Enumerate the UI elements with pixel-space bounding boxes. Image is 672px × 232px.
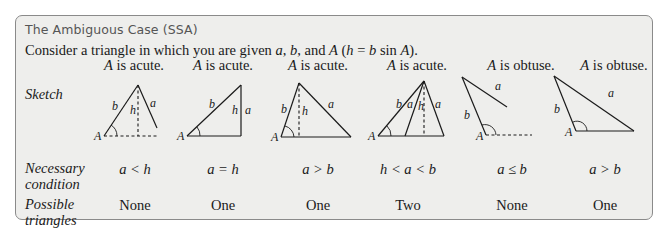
side-label-h: h	[418, 99, 424, 113]
side-label-b: b	[464, 108, 470, 122]
sketch-case-2: A b h a	[176, 85, 251, 143]
angle-arc	[111, 125, 117, 136]
side-label-b: b	[209, 97, 215, 111]
condition-case-2: a = h	[207, 161, 239, 178]
sketch-case-4: A b a h a	[367, 81, 444, 143]
condition-case-6: a > b	[589, 161, 621, 178]
possible-case-1: None	[119, 197, 150, 214]
condition-case-4: h < a < b	[380, 161, 436, 178]
possible-case-6: One	[593, 197, 617, 214]
sketch-case-5: A b a	[462, 77, 532, 143]
side-a	[554, 76, 634, 131]
side-label-a: a	[328, 97, 334, 111]
possible-case-3: One	[306, 197, 330, 214]
ambiguous-case-panel: The Ambiguous Case (SSA) Consider a tria…	[15, 15, 653, 220]
vertex-label: A	[367, 129, 376, 143]
sketch-case-3: A b h a	[270, 83, 351, 144]
side-label-h: h	[232, 103, 238, 117]
side-label-b: b	[112, 99, 118, 113]
side-label-a: a	[407, 97, 413, 111]
side-label-h: h	[302, 104, 308, 118]
vertex-label: A	[564, 125, 573, 139]
side-label-a: a	[245, 103, 251, 117]
side-label-b: b	[281, 102, 287, 116]
vertex-label: A	[176, 129, 185, 143]
condition-case-3: a > b	[302, 161, 334, 178]
possible-case-2: One	[211, 197, 235, 214]
vertex-label: A	[93, 129, 102, 143]
side-label-a: a	[150, 96, 156, 110]
sketch-case-1: A b h a	[93, 85, 159, 143]
angle-arc	[387, 126, 391, 136]
angle-arc	[285, 126, 294, 137]
possible-case-4: Two	[395, 197, 421, 214]
sketches: A b h a A b h a A b h a	[16, 16, 654, 221]
vertex-label: A	[270, 130, 279, 144]
condition-case-5: a ≤ b	[497, 161, 527, 178]
side-a-long	[424, 81, 444, 136]
sketch-case-6: A b a	[554, 76, 634, 139]
side-label-b: b	[396, 97, 402, 111]
side-label-a: a	[435, 97, 441, 111]
side-label-a: a	[608, 86, 614, 100]
angle-arc	[197, 127, 200, 136]
vertex-label: A	[475, 129, 484, 143]
side-label-b: b	[554, 102, 560, 116]
side-label-h: h	[130, 103, 136, 117]
possible-case-5: None	[496, 197, 527, 214]
condition-case-1: a < h	[119, 161, 151, 178]
side-label-a: a	[495, 79, 501, 93]
